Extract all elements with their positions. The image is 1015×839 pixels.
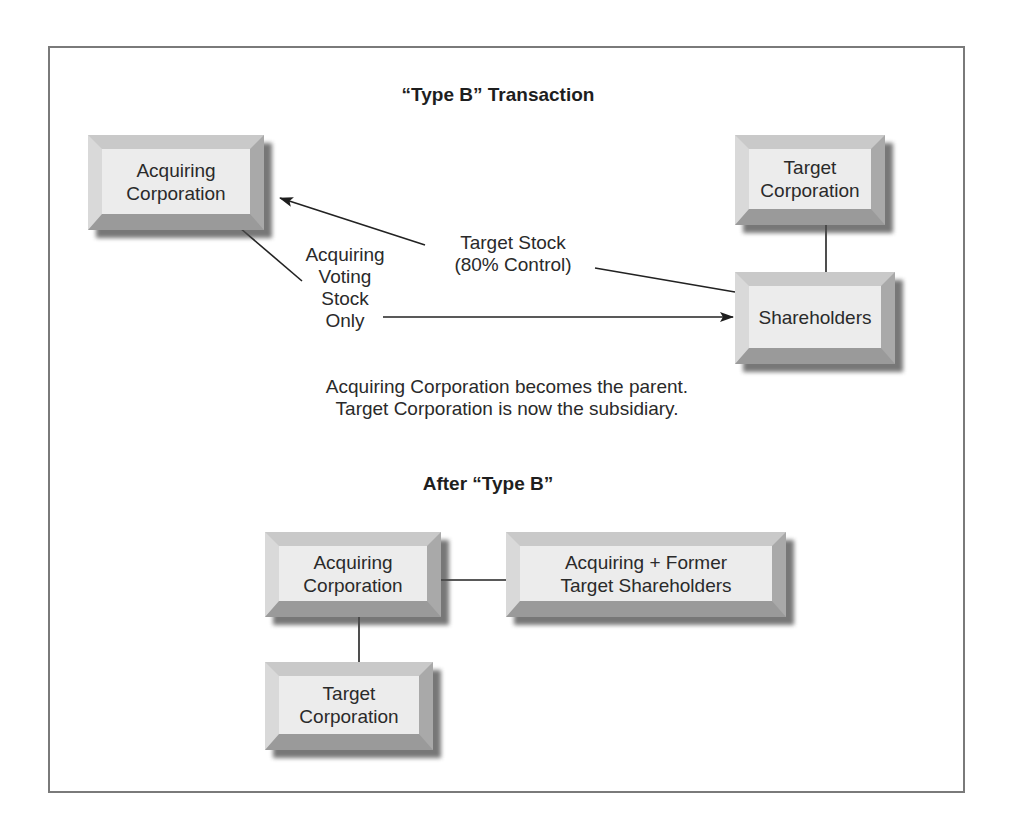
caption-line: Target Corporation is now the subsidiary… xyxy=(262,398,752,420)
node-label: Corporation xyxy=(760,179,859,202)
node-label: Target xyxy=(299,682,398,705)
edge-label-line: Voting xyxy=(290,266,400,288)
node-label: Corporation xyxy=(303,574,402,597)
target-stock-line xyxy=(595,268,735,292)
node-acquiring-corporation: Acquiring Corporation xyxy=(88,135,264,230)
node-label: Target xyxy=(760,156,859,179)
after-node-combined-shareholders: Acquiring + Former Target Shareholders xyxy=(506,532,786,617)
edge-label-voting-stock: Acquiring Voting Stock Only xyxy=(290,244,400,332)
diagram-title: “Type B” Transaction xyxy=(368,84,628,106)
diagram-caption: Acquiring Corporation becomes the parent… xyxy=(262,376,752,420)
edge-label-line: (80% Control) xyxy=(432,254,594,276)
node-label: Corporation xyxy=(126,182,225,205)
node-label: Acquiring xyxy=(126,159,225,182)
edge-label-line: Stock xyxy=(290,288,400,310)
node-label: Corporation xyxy=(299,705,398,728)
node-target-corporation: Target Corporation xyxy=(735,135,885,225)
after-node-target-corporation: Target Corporation xyxy=(265,662,433,750)
edge-label-line: Only xyxy=(290,310,400,332)
node-label: Target Shareholders xyxy=(560,574,731,597)
edge-label-line: Acquiring xyxy=(290,244,400,266)
edge-label-target-stock: Target Stock (80% Control) xyxy=(432,232,594,276)
target-stock-arrow xyxy=(280,198,425,245)
node-label: Shareholders xyxy=(758,306,871,329)
after-title: After “Type B” xyxy=(398,473,578,495)
after-node-acquiring-corporation: Acquiring Corporation xyxy=(265,532,441,617)
node-shareholders: Shareholders xyxy=(735,272,895,364)
caption-line: Acquiring Corporation becomes the parent… xyxy=(262,376,752,398)
node-label: Acquiring + Former xyxy=(560,551,731,574)
edge-label-line: Target Stock xyxy=(432,232,594,254)
node-label: Acquiring xyxy=(303,551,402,574)
